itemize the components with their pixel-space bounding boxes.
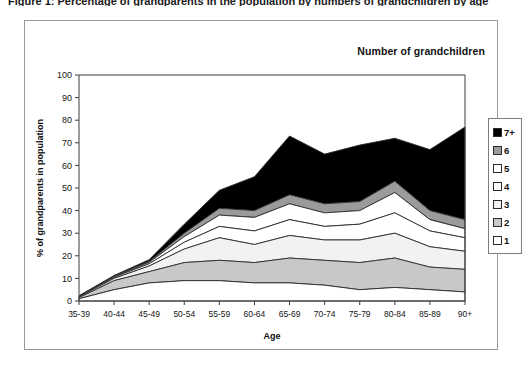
y-tick-label: 70	[62, 138, 72, 148]
x-axis-title: Age	[263, 331, 280, 341]
x-tick-label: 90+	[458, 309, 472, 319]
y-tick-label: 10	[62, 274, 72, 284]
chart-frame: Number of grandchildren 0102030405060708…	[24, 20, 498, 350]
legend-item-label: 6	[504, 146, 509, 155]
legend-item-4[interactable]: 4	[493, 177, 521, 195]
x-tick-label: 85-89	[419, 309, 441, 319]
x-tick-label: 40-44	[103, 309, 125, 319]
x-tick-label: 65-69	[279, 309, 301, 319]
legend-item-label: 2	[504, 218, 509, 227]
y-tick-label: 80	[62, 115, 72, 125]
legend-item-label: 4	[504, 182, 509, 191]
x-tick-label: 50-54	[173, 309, 195, 319]
legend-item-label: 1	[504, 236, 509, 245]
y-tick-label: 40	[62, 206, 72, 216]
y-tick-label: 60	[62, 161, 72, 171]
x-tick-label: 75-79	[349, 309, 371, 319]
legend-item-6[interactable]: 6	[493, 141, 521, 159]
legend-item-3[interactable]: 3	[493, 195, 521, 213]
y-tick-label: 0	[67, 296, 72, 306]
legend-item-label: 7+	[504, 128, 515, 137]
x-tick-label: 45-49	[138, 309, 160, 319]
x-tick-label: 35-39	[68, 309, 90, 319]
legend-item-5[interactable]: 5	[493, 159, 521, 177]
legend-swatch-icon	[493, 218, 502, 227]
legend-item-1[interactable]: 1	[493, 231, 521, 249]
legend-swatch-icon	[493, 146, 502, 155]
legend-swatch-icon	[493, 164, 502, 173]
legend-swatch-icon	[493, 182, 502, 191]
legend-item-2[interactable]: 2	[493, 213, 521, 231]
legend-swatch-icon	[493, 128, 502, 137]
legend-item-label: 3	[504, 200, 509, 209]
legend-item-label: 5	[504, 164, 509, 173]
legend-swatch-icon	[493, 236, 502, 245]
y-tick-label: 50	[62, 183, 72, 193]
y-tick-label: 100	[57, 70, 72, 80]
x-tick-label: 60-64	[244, 309, 266, 319]
y-tick-label: 20	[62, 251, 72, 261]
y-axis-title: % of grandparents in population	[35, 119, 45, 257]
page-title: Figure 1: Percentage of grandparents in …	[8, 0, 508, 6]
x-tick-label: 70-74	[314, 309, 336, 319]
legend-item-7plus[interactable]: 7+	[493, 123, 521, 141]
stacked-area-chart: 010203040506070809010035-3940-4445-4950-…	[25, 21, 497, 349]
x-tick-label: 55-59	[208, 309, 230, 319]
chart-legend: 7+654321	[488, 118, 522, 254]
x-tick-label: 80-84	[384, 309, 406, 319]
y-tick-label: 30	[62, 228, 72, 238]
legend-swatch-icon	[493, 200, 502, 209]
y-tick-label: 90	[62, 93, 72, 103]
